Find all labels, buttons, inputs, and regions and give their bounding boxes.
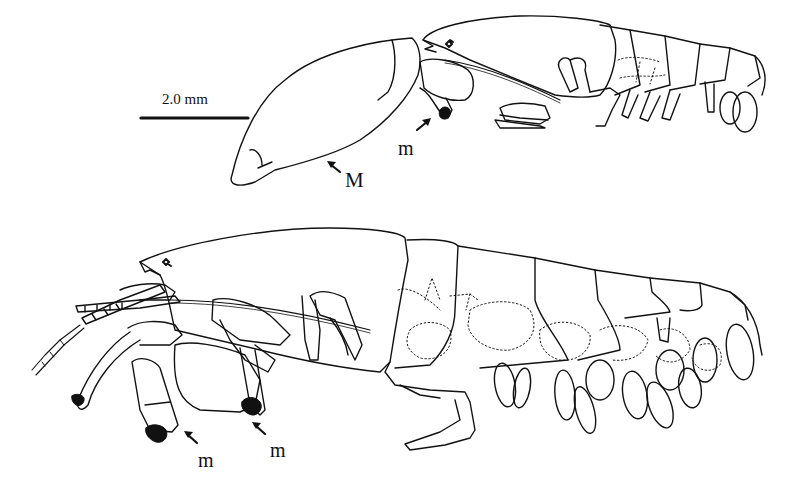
minor-arrow-icon xyxy=(417,118,431,130)
scale-bar-label: 2.0 mm xyxy=(162,92,208,107)
specimen-illustration xyxy=(0,0,786,493)
major-arrow-icon xyxy=(327,161,340,172)
minor-gnathopod-label-top: m xyxy=(398,138,414,158)
top-specimen xyxy=(231,16,765,185)
minor-gnathopod-label-bottom-left: m xyxy=(198,450,214,470)
major-chela-label: M xyxy=(345,170,364,191)
minor-arrow-right-icon xyxy=(252,422,265,434)
minor-gnathopod-label-bottom-right: m xyxy=(270,440,286,460)
minor-arrow-left-icon xyxy=(184,431,197,443)
major-chela xyxy=(231,38,420,185)
bottom-specimen xyxy=(32,228,762,450)
